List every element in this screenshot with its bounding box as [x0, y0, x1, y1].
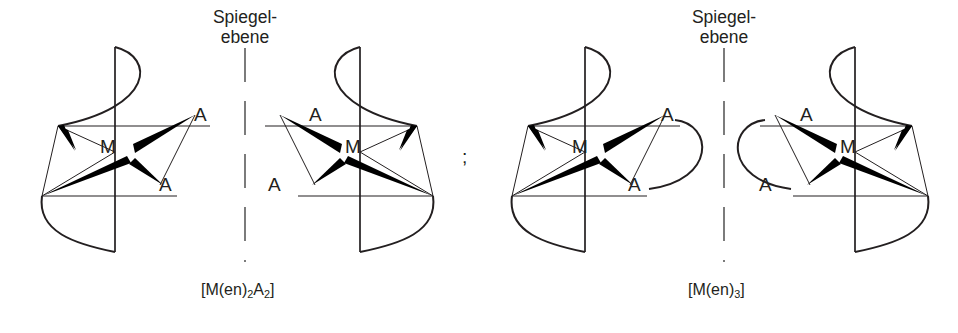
pair-separator: ; [462, 146, 467, 167]
formula-right-suffix: ] [740, 281, 744, 298]
complex-1-drawing [42, 47, 210, 252]
atom-label-c1-a-bottom: A [159, 174, 172, 195]
atom-label-c3-a-bottom: A [628, 174, 641, 195]
formula-left: [M(en)2A2] [201, 281, 274, 299]
mirror-plane-label-left-line1: Spiegel- [200, 8, 290, 28]
atom-label-c2-a-top: A [309, 104, 322, 125]
complex-3-drawing [512, 47, 703, 252]
atom-label-c4-a-bottom: A [759, 174, 772, 195]
mirror-plane-label-right-line2: ebene [679, 28, 769, 48]
atom-label-c4-metal: M [840, 136, 856, 157]
atom-label-c1-a-top: A [194, 104, 207, 125]
formula-left-suffix: ] [270, 281, 274, 298]
formula-right: [M(en)3] [688, 281, 745, 299]
mirror-plane-label-right-line1: Spiegel- [679, 8, 769, 28]
atom-label-c4-a-top: A [800, 104, 813, 125]
formula-right-sub1: 3 [734, 288, 740, 300]
mirror-plane-label-left-line2: ebene [200, 28, 290, 48]
atom-label-c2-metal: M [345, 136, 361, 157]
atom-label-c3-metal: M [572, 136, 588, 157]
atom-label-c1-metal: M [100, 136, 116, 157]
molecule-drawing-canvas [0, 0, 958, 333]
formula-left-sub1: 2 [247, 288, 253, 300]
atom-label-c2-a-bottom: A [268, 174, 281, 195]
chemistry-figure: Spiegel- ebene Spiegel- ebene A A M A A … [0, 0, 958, 333]
formula-left-prefix: [M(en) [201, 281, 247, 298]
mirror-plane-label-right: Spiegel- ebene [679, 8, 769, 47]
formula-right-prefix: [M(en) [688, 281, 734, 298]
mirror-plane-label-left: Spiegel- ebene [200, 8, 290, 47]
formula-left-sub2: 2 [264, 288, 270, 300]
formula-left-mid: A [253, 281, 264, 298]
complex-4-drawing [738, 47, 929, 252]
atom-label-c3-a-top: A [661, 104, 674, 125]
